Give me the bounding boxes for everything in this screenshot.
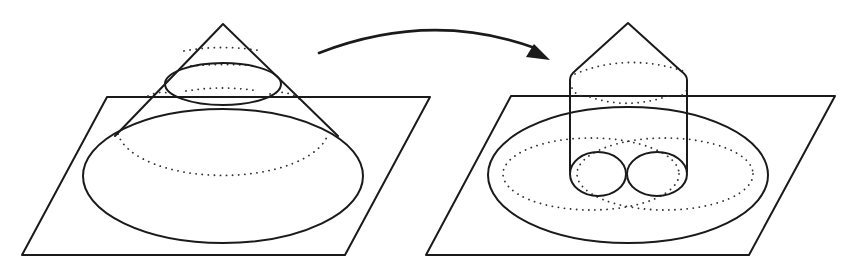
right-hidden-cap-ellipse [575, 62, 686, 74]
left-hidden-ellipse-large [118, 134, 328, 175]
right-figure-cylinder-plane [426, 23, 835, 255]
right-cylinder-outline [570, 23, 687, 172]
cone-plane-transformation-diagram [0, 0, 860, 275]
left-large-ellipse [83, 109, 363, 243]
right-hidden-ellipse-left [503, 138, 679, 210]
right-small-circle-right [627, 152, 687, 196]
arrow-curve [319, 30, 535, 53]
left-hidden-ellipse-mid [186, 88, 258, 91]
right-small-circle-left [570, 152, 626, 196]
left-small-ellipse [165, 63, 281, 105]
right-hidden-ellipse-right [577, 138, 753, 210]
transformation-arrow [319, 30, 550, 60]
left-figure-cone-plane [22, 24, 430, 255]
